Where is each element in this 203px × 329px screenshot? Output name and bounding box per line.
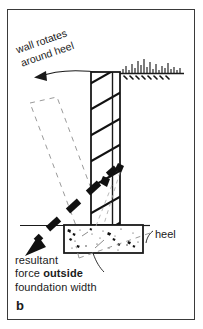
ground-surface (120, 59, 184, 79)
panel-label: b (16, 299, 24, 314)
retaining-wall-stem (86, 64, 125, 242)
grass-tufts-icon (123, 59, 180, 73)
resultant-note-line-2-prefix: force (15, 267, 43, 279)
resultant-note-line-2: force outside (15, 267, 97, 279)
resultant-note-emphasis: outside (43, 267, 83, 279)
foundation-footing (64, 225, 143, 253)
resultant-force-note: resultant force outside foundation width (15, 254, 97, 294)
figure-panel-b: wall rotates around heel heel resultant … (0, 0, 203, 329)
heel-label: heel (155, 228, 176, 240)
soil-hatch (124, 76, 169, 79)
resultant-note-line-3: foundation width (15, 281, 97, 293)
resultant-note-line-1: resultant (15, 254, 97, 266)
